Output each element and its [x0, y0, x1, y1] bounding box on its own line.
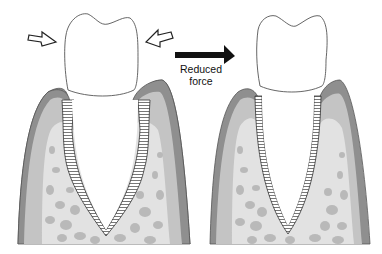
label-line-1: Reduced: [176, 63, 226, 75]
reduced-force-label: Reduced force: [176, 63, 226, 87]
left-crown: [65, 14, 138, 96]
hollow-arrow-right-icon: [28, 32, 56, 46]
solid-arrow-right-icon: [175, 45, 235, 64]
right-crown: [257, 16, 327, 92]
left-tooth-panel: [18, 14, 190, 244]
diagram-canvas: [0, 0, 382, 254]
label-line-2: force: [176, 75, 226, 87]
hollow-arrow-left-icon: [146, 30, 173, 47]
right-tooth-panel: [210, 16, 370, 244]
